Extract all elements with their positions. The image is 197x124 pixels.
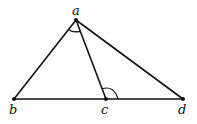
point-b (12, 97, 16, 101)
label-c: c (101, 102, 109, 117)
label-a: a (72, 3, 80, 18)
point-c (104, 97, 108, 101)
angle-arc-bac (69, 30, 81, 32)
label-d: d (178, 102, 186, 117)
segment-ad (76, 20, 183, 99)
segment-ab (14, 20, 76, 99)
point-d (181, 97, 185, 101)
triangle-diagram: a b c d (0, 0, 197, 124)
point-a (74, 18, 78, 22)
label-b: b (9, 102, 17, 117)
